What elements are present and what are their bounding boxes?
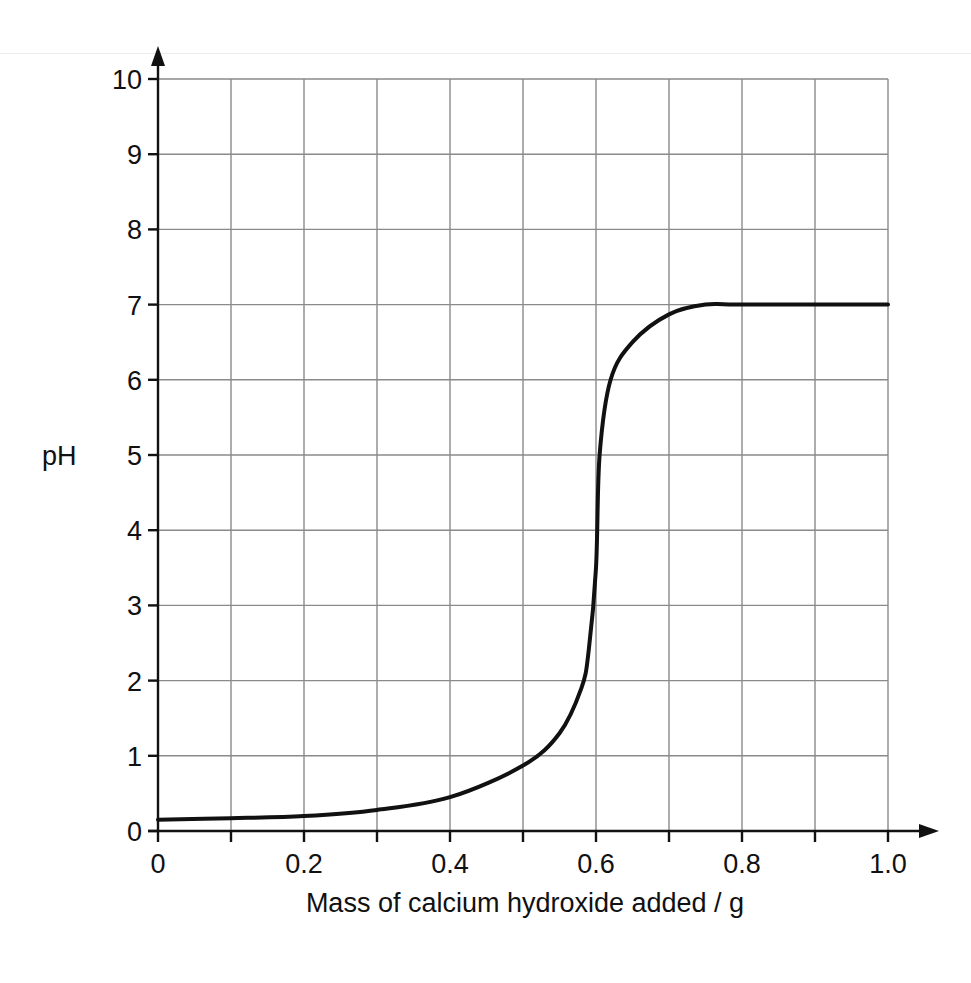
x-tick-label: 0: [150, 849, 165, 879]
y-tick-label: 3: [127, 591, 142, 621]
ph-curve-chart: 012345678910 00.20.40.60.81.0 pH Mass of…: [0, 0, 971, 983]
x-tick-label: 0.6: [577, 849, 615, 879]
x-axis-arrow-icon: [919, 824, 939, 838]
y-tick-label: 2: [127, 667, 142, 697]
x-axis-title: Mass of calcium hydroxide added / g: [306, 888, 744, 918]
y-tick-label: 7: [127, 291, 142, 321]
axes: [148, 46, 939, 838]
y-tick-label: 1: [127, 742, 142, 772]
y-tick-label: 9: [127, 140, 142, 170]
grid-lines: [158, 79, 888, 831]
x-tick-labels: 00.20.40.60.81.0: [150, 849, 906, 879]
y-tick-labels: 012345678910: [112, 65, 142, 847]
x-tick-label: 0.8: [723, 849, 761, 879]
y-axis-arrow-icon: [151, 46, 165, 66]
axis-ticks: [148, 79, 888, 842]
y-tick-label: 5: [127, 441, 142, 471]
y-axis-title: pH: [42, 441, 77, 471]
y-tick-label: 6: [127, 366, 142, 396]
x-tick-label: 0.4: [431, 849, 469, 879]
y-tick-label: 0: [127, 817, 142, 847]
x-tick-label: 1.0: [869, 849, 907, 879]
x-tick-label: 0.2: [285, 849, 323, 879]
y-tick-label: 10: [112, 65, 142, 95]
y-tick-label: 8: [127, 215, 142, 245]
y-tick-label: 4: [127, 516, 142, 546]
